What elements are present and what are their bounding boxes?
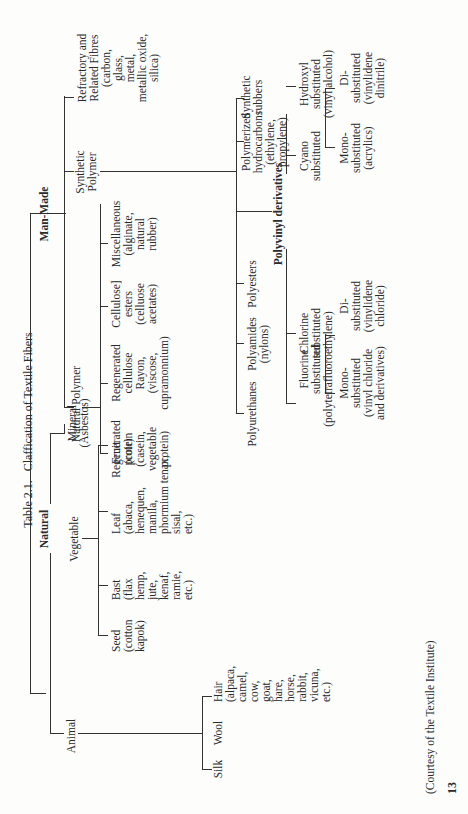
connector xyxy=(46,213,66,214)
animal-bracket xyxy=(202,696,203,770)
natural-polymer-bracket xyxy=(100,204,101,454)
node-chlorine-mono: Mono- substituted (vinyl chloride and de… xyxy=(338,338,386,428)
connector xyxy=(100,453,108,454)
connector xyxy=(50,733,64,734)
connector xyxy=(325,88,335,89)
node-polyamides: Polyamides (nylons) xyxy=(246,314,270,374)
node-wool: Wool xyxy=(212,718,224,748)
connector xyxy=(325,393,335,394)
node-animal: Animal xyxy=(65,706,77,766)
connector xyxy=(98,585,108,586)
node-hydroxyl-substituted: Hydroxyl substituted (vinyl alcohol) xyxy=(298,39,334,129)
connector xyxy=(286,403,296,404)
connector xyxy=(100,383,108,384)
connector xyxy=(286,333,296,334)
polyvinyl-bracket xyxy=(286,249,287,404)
node-vegetable: Vegetable xyxy=(68,504,80,574)
connector xyxy=(82,407,100,408)
node-cyano-substituted: Cyano substituted xyxy=(298,124,322,188)
node-bast: Bast (flax hemp, jute, kenaf, ramie, etc… xyxy=(110,554,194,600)
chlorine-bracket xyxy=(325,334,326,394)
connector xyxy=(100,306,108,307)
connector xyxy=(286,155,296,156)
page-number: 13 xyxy=(446,764,458,794)
connector xyxy=(98,511,108,512)
node-cyano-di: Di- substituted (vinylidene dinitrile) xyxy=(338,42,386,114)
node-cellulose-esters: Cellulose] esters (celluose acetates) xyxy=(110,274,158,334)
connector xyxy=(202,696,212,697)
connector xyxy=(98,635,108,636)
connector xyxy=(100,171,236,172)
connector xyxy=(64,97,74,98)
node-regenerated-protein: Regenerated protein (casein, vegetable p… xyxy=(110,414,170,484)
node-chlorine-substituted: Chlorine substituted xyxy=(298,298,322,368)
polyvinyl-bracket xyxy=(286,114,287,174)
connector xyxy=(82,538,98,539)
rotated-page: Table 2.1. Claffication of Textile Fiber… xyxy=(0,0,468,814)
connector xyxy=(50,433,64,434)
node-chlorine-di: Di- substituted (vinylidene chloride) xyxy=(338,268,386,344)
node-miscellaneous: Miscellaneous (alginate, natural rubber) xyxy=(110,194,158,274)
man-made-bracket xyxy=(64,96,65,408)
connector xyxy=(30,693,46,694)
node-synthetic-polymer: Synthetic Polymer xyxy=(74,142,98,202)
node-polyvinyl-derivatives: Polyvinyl derivatives xyxy=(272,144,284,284)
node-natural: Natural xyxy=(38,494,50,564)
natural-bracket xyxy=(50,553,51,734)
synthetic-bracket xyxy=(236,98,237,414)
node-cyano-mono: Mono- substituted (acrylics) xyxy=(338,112,374,184)
connector xyxy=(286,86,296,87)
node-refractory: Refractory and Related Fibres (carbon, g… xyxy=(76,18,160,118)
credit-line: (Courtesy of the Textile Institute) xyxy=(424,534,436,794)
node-polyesters: Polyesters xyxy=(246,254,258,314)
natural-bracket xyxy=(50,434,51,504)
vegetable-bracket xyxy=(98,445,99,636)
connector xyxy=(325,335,335,336)
cyano-bracket xyxy=(325,88,326,148)
node-man-made: Man-Made xyxy=(38,179,50,249)
connector xyxy=(78,733,202,734)
connector xyxy=(236,343,244,344)
connector xyxy=(100,243,108,244)
root-bracket xyxy=(30,213,31,694)
node-natural-polymer: Natural Polymer xyxy=(70,364,82,444)
connector xyxy=(236,413,244,414)
node-silk: Silk xyxy=(212,756,224,782)
connector xyxy=(325,147,335,148)
node-synthetic-rubbers: Synthetic rubbers xyxy=(240,72,264,122)
connector xyxy=(202,769,212,770)
node-seed: Seed (cotton kapok) xyxy=(110,606,146,652)
connector xyxy=(64,171,74,172)
table-title: Table 2.1. Claffication of Textile Fiber… xyxy=(22,310,34,550)
connector xyxy=(236,211,272,212)
node-regenerated-cellulose: Regenerated cellulose Rayon, (viscose, c… xyxy=(110,330,170,416)
node-polyurethanes: Polyurethanes xyxy=(246,374,258,454)
node-hair: Hair (alpaca, camel, cow, goat, hare, ho… xyxy=(212,642,332,702)
connector xyxy=(236,283,244,284)
